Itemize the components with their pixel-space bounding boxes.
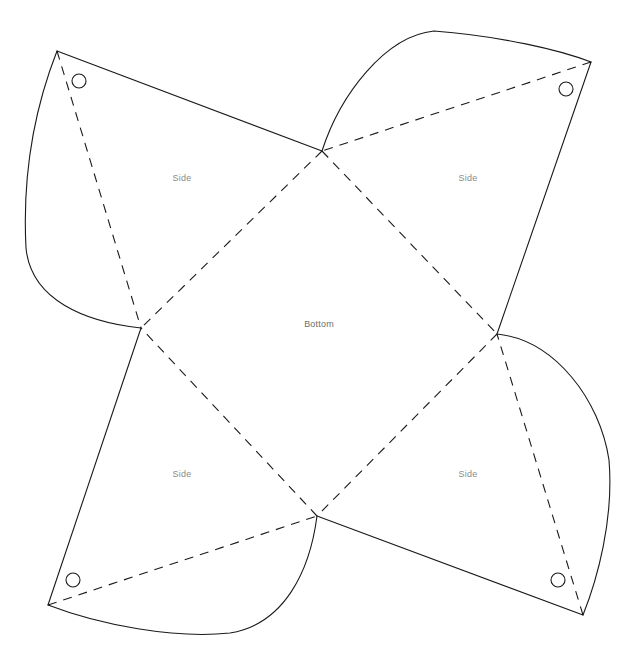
label-side-top-right: Side <box>459 173 478 183</box>
net-diagram: Bottom Side Side Side Side <box>0 0 638 667</box>
canvas-background <box>0 0 638 667</box>
label-side-top-left: Side <box>173 173 192 183</box>
label-side-bottom-left: Side <box>173 469 192 479</box>
net-template-canvas: Bottom Side Side Side Side <box>0 0 638 667</box>
label-bottom-panel: Bottom <box>304 319 334 329</box>
label-side-bottom-right: Side <box>459 469 478 479</box>
